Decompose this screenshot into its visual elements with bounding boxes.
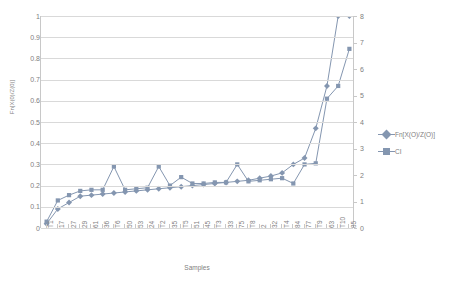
x-axis-tick-label: T9 bbox=[317, 220, 324, 228]
x-axis-tick-label: T8 bbox=[250, 220, 257, 228]
data-point bbox=[269, 177, 273, 181]
y-axis-right-tick-mark bbox=[354, 16, 357, 17]
y-axis-left-tick-label: 0.4 bbox=[6, 140, 40, 147]
data-point bbox=[213, 180, 217, 184]
legend-symbol-diamond bbox=[382, 129, 392, 139]
y-axis-right-tick-label: 2 bbox=[360, 172, 364, 179]
x-axis-ticks: T11727296136T6505324T235T55145T33375T823… bbox=[40, 228, 354, 262]
x-axis-tick-label: 77 bbox=[306, 221, 313, 228]
y-axis-right-tick-mark bbox=[354, 149, 357, 150]
y-axis-right-tick-label: 1 bbox=[360, 198, 364, 205]
gridline bbox=[41, 80, 353, 81]
gridline bbox=[41, 164, 353, 165]
x-axis-tick-label: 51 bbox=[194, 221, 201, 228]
data-point bbox=[89, 188, 93, 192]
data-point bbox=[88, 192, 94, 198]
data-point bbox=[67, 193, 71, 197]
x-axis-title: Samples bbox=[0, 264, 394, 272]
legend-item[interactable]: CI bbox=[378, 145, 450, 157]
x-axis-tick-label: 2 bbox=[261, 224, 268, 228]
data-point bbox=[111, 190, 117, 196]
x-axis-tick-mark bbox=[281, 224, 282, 228]
x-axis-tick-mark bbox=[214, 224, 215, 228]
legend-label: Fn[X(O)/Z(O)] bbox=[395, 131, 435, 138]
data-point bbox=[56, 198, 60, 202]
x-axis-tick-mark bbox=[57, 224, 58, 228]
x-axis-tick-mark bbox=[236, 224, 237, 228]
gridline bbox=[41, 207, 353, 208]
x-axis-tick-label: 53 bbox=[138, 221, 145, 228]
data-point bbox=[123, 188, 127, 192]
y-axis-left-tick-label: 0.9 bbox=[6, 34, 40, 41]
y-axis-right-tick-mark bbox=[354, 69, 357, 70]
y-axis-left-tick-label: 0 bbox=[6, 225, 40, 232]
data-point bbox=[258, 178, 262, 182]
x-axis-tick-label: 50 bbox=[127, 221, 134, 228]
x-axis-tick-mark bbox=[270, 224, 271, 228]
gridline bbox=[41, 58, 353, 59]
x-axis-tick-label: 84 bbox=[295, 221, 302, 228]
x-axis-tick-label: 75 bbox=[239, 221, 246, 228]
x-axis-tick-mark bbox=[68, 224, 69, 228]
data-point bbox=[100, 191, 106, 197]
data-point bbox=[134, 187, 138, 191]
x-axis-tick-mark bbox=[158, 224, 159, 228]
x-axis-tick-label: 32 bbox=[272, 221, 279, 228]
data-point bbox=[313, 125, 319, 131]
gridline bbox=[41, 37, 353, 38]
legend-symbol-square bbox=[383, 148, 390, 155]
x-axis-tick-mark bbox=[180, 224, 181, 228]
x-axis-tick-mark bbox=[46, 224, 47, 228]
data-point bbox=[234, 178, 240, 184]
data-point bbox=[77, 193, 83, 199]
data-point bbox=[280, 176, 284, 180]
y-axis-right-tick-label: 5 bbox=[360, 92, 364, 99]
y-axis-right-tick-label: 8 bbox=[360, 13, 364, 20]
gridline bbox=[41, 101, 353, 102]
gridline bbox=[41, 186, 353, 187]
legend-label: CI bbox=[395, 148, 402, 155]
x-axis-tick-mark bbox=[292, 224, 293, 228]
y-axis-right-tick-label: 4 bbox=[360, 119, 364, 126]
y-axis-right-tick-label: 3 bbox=[360, 145, 364, 152]
series-line bbox=[47, 16, 350, 224]
y-axis-right-tick-mark bbox=[354, 96, 357, 97]
y-axis-left: 00.10.20.30.40.50.60.70.80.91 bbox=[0, 0, 40, 244]
x-axis-tick-label: 36 bbox=[104, 221, 111, 228]
data-point bbox=[101, 188, 105, 192]
x-axis-tick-mark bbox=[79, 224, 80, 228]
y-axis-left-tick-label: 0.3 bbox=[6, 161, 40, 168]
x-axis-tick-label: T1 bbox=[48, 220, 55, 228]
legend-item[interactable]: Fn[X(O)/Z(O)] bbox=[378, 128, 450, 140]
x-axis-tick-mark bbox=[203, 224, 204, 228]
legend-marker-icon bbox=[378, 147, 395, 156]
x-axis-tick-mark bbox=[102, 224, 103, 228]
data-point bbox=[302, 155, 308, 161]
x-axis-tick-mark bbox=[304, 224, 305, 228]
y-axis-left-tick-label: 1 bbox=[6, 13, 40, 20]
x-axis-tick-mark bbox=[90, 224, 91, 228]
data-point bbox=[179, 175, 183, 179]
plot-area bbox=[40, 16, 354, 228]
gridline bbox=[41, 143, 353, 144]
x-axis-tick-label: 61 bbox=[93, 221, 100, 228]
data-point bbox=[66, 200, 72, 206]
x-axis-tick-mark bbox=[135, 224, 136, 228]
data-point bbox=[324, 83, 330, 89]
x-axis-tick-label: T3 bbox=[216, 220, 223, 228]
x-axis-tick-label: 33 bbox=[228, 221, 235, 228]
gridline bbox=[41, 16, 353, 17]
x-axis-tick-mark bbox=[315, 224, 316, 228]
data-point bbox=[246, 179, 250, 183]
x-axis-tick-mark bbox=[348, 224, 349, 228]
data-point bbox=[336, 84, 340, 88]
x-axis-tick-mark bbox=[326, 224, 327, 228]
data-point bbox=[78, 189, 82, 193]
y-axis-right-tick-mark bbox=[354, 175, 357, 176]
y-axis-left-tick-label: 0.8 bbox=[6, 55, 40, 62]
y-axis-left-tick-label: 0.2 bbox=[6, 182, 40, 189]
y-axis-right: 012345678 bbox=[354, 0, 394, 244]
y-axis-right-tick-mark bbox=[354, 228, 357, 229]
gridline bbox=[41, 122, 353, 123]
x-axis-tick-label: T2 bbox=[160, 220, 167, 228]
